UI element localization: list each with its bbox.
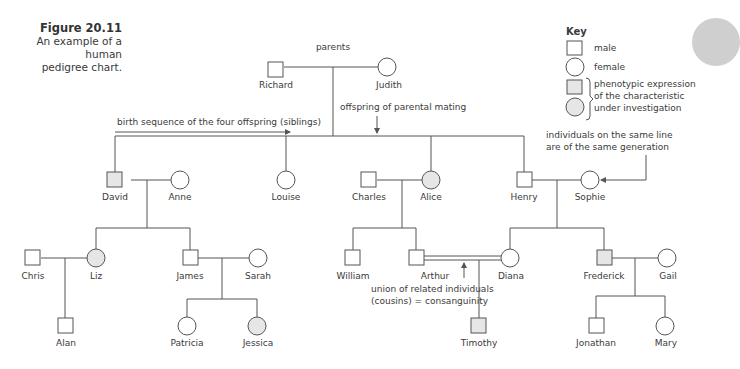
svg-text:Anne: Anne <box>168 192 192 202</box>
svg-text:phenotypic expression: phenotypic expression <box>594 79 696 89</box>
key-title: Key <box>566 26 587 37</box>
legend-key: Key male female phenotypic expression of… <box>566 26 696 116</box>
svg-text:Alice: Alice <box>420 192 442 202</box>
svg-text:Sarah: Sarah <box>245 271 271 281</box>
individual-chris: Chris <box>22 250 45 281</box>
individual-alan: Alan <box>56 318 76 348</box>
individual-sarah: Sarah <box>245 249 271 281</box>
annotation-birth-sequence: birth sequence of the four offspring (si… <box>117 117 321 127</box>
individual-liz: Liz <box>87 249 105 281</box>
individual-david: David <box>102 172 128 202</box>
key-male-symbol <box>567 41 582 55</box>
individual-jonathan: Jonathan <box>575 318 616 348</box>
svg-text:Jonathan: Jonathan <box>575 338 616 348</box>
individual-patricia: Patricia <box>170 317 203 348</box>
svg-text:under investigation: under investigation <box>594 103 681 113</box>
annotation-parents: parents <box>316 42 351 52</box>
individual-timothy: Timothy <box>460 318 498 348</box>
svg-text:Frederick: Frederick <box>583 271 625 281</box>
svg-text:David: David <box>102 192 128 202</box>
key-affected-male-symbol <box>567 80 582 94</box>
individual-william: William <box>337 250 370 281</box>
annotation-consanguinity-2: (cousins) = consanguinity <box>371 296 489 306</box>
individual-sophie: Sophie <box>575 171 606 202</box>
female-symbol <box>378 58 396 76</box>
svg-text:William: William <box>337 271 370 281</box>
svg-text:Arthur: Arthur <box>421 271 450 281</box>
individual-henry: Henry <box>510 172 538 202</box>
svg-text:Chris: Chris <box>22 271 45 281</box>
individual-jessica: Jessica <box>242 317 274 348</box>
individual-charles: Charles <box>352 172 386 202</box>
svg-text:Gail: Gail <box>659 271 677 281</box>
svg-text:James: James <box>175 271 203 281</box>
key-female-symbol <box>566 58 584 76</box>
individual-richard: Richard <box>259 62 293 90</box>
individual-alice: Alice <box>420 171 442 202</box>
annotation-generation-1: individuals on the same line <box>546 130 673 140</box>
svg-text:Liz: Liz <box>90 271 103 281</box>
annotation-consanguinity-1: union of related individuals <box>371 284 494 294</box>
svg-text:Sophie: Sophie <box>575 192 606 202</box>
annotation-generation-2: are of the same generation <box>546 142 669 152</box>
individual-frederick: Frederick <box>583 250 625 281</box>
svg-text:Diana: Diana <box>498 271 524 281</box>
svg-text:Judith: Judith <box>375 80 402 90</box>
svg-text:of the characteristic: of the characteristic <box>594 91 684 101</box>
svg-text:Patricia: Patricia <box>170 338 203 348</box>
annotation-offspring: offspring of parental mating <box>340 102 466 112</box>
individual-anne: Anne <box>168 171 192 202</box>
key-affected-female-symbol <box>566 98 584 116</box>
individual-gail: Gail <box>658 249 677 281</box>
individual-james: James <box>175 250 203 281</box>
individual-mary: Mary <box>655 317 678 348</box>
svg-text:Henry: Henry <box>510 192 538 202</box>
svg-text:Richard: Richard <box>259 80 293 90</box>
individual-judith: Judith <box>375 58 402 90</box>
svg-text:Mary: Mary <box>655 338 678 348</box>
svg-text:Jessica: Jessica <box>242 338 274 348</box>
svg-text:Louise: Louise <box>272 192 301 202</box>
svg-text:female: female <box>594 62 625 72</box>
svg-text:Timothy: Timothy <box>460 338 498 348</box>
svg-text:male: male <box>594 43 617 53</box>
male-symbol <box>268 62 283 77</box>
svg-text:Alan: Alan <box>56 338 76 348</box>
individual-louise: Louise <box>272 171 301 202</box>
individual-arthur: Arthur <box>409 250 450 281</box>
svg-text:Charles: Charles <box>352 192 386 202</box>
individual-diana: Diana <box>498 249 524 281</box>
